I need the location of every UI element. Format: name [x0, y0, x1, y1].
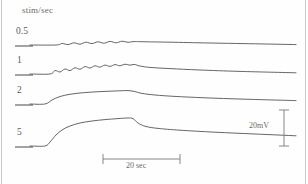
electrophysiology-figure: stim/sec 0.5 1 2 5 20 sec 20mV — [0, 0, 308, 184]
vertical-scale-bar — [279, 110, 289, 146]
trace-3 — [30, 118, 296, 146]
trace-group — [30, 41, 296, 146]
horizontal-scale-bar — [103, 154, 180, 164]
trace-0 — [30, 41, 296, 45]
trace-1 — [30, 64, 296, 74]
trace-2 — [30, 91, 296, 105]
traces-canvas — [0, 0, 308, 184]
baselines — [15, 46, 33, 147]
